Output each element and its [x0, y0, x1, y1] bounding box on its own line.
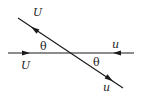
arrow-right-icon — [22, 51, 30, 56]
arrow-upleft-icon — [31, 27, 39, 34]
arrow-left-icon — [113, 51, 121, 56]
velocity-diagram: U U u u θ θ — [0, 0, 142, 96]
label-angle-left-theta: θ — [40, 40, 47, 53]
label-upper-right-u: u — [112, 38, 119, 51]
label-angle-right-theta: θ — [93, 56, 100, 69]
label-lower-left-U: U — [21, 59, 31, 72]
label-upper-left-U: U — [33, 6, 43, 19]
label-lower-right-u: u — [103, 81, 110, 94]
